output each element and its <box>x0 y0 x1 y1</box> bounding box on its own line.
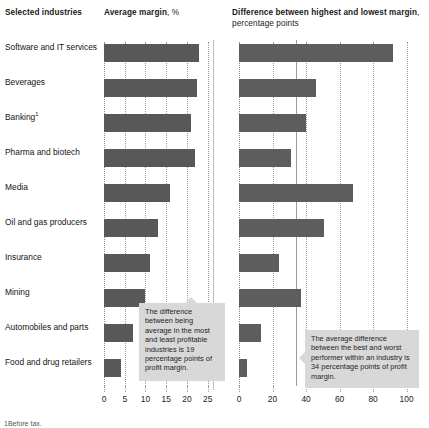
x-tick-mark-0 <box>239 386 240 392</box>
footnote: 1Before tax. <box>4 420 42 428</box>
x-tick-mark-20 <box>273 386 274 392</box>
x-tick-label-20: 20 <box>182 394 191 404</box>
x-axis-difference: 020406080100 <box>239 394 419 414</box>
bar-banking <box>239 114 306 132</box>
bar-oil-and-gas-producers <box>239 219 324 237</box>
row-label-beverages: Beverages <box>5 77 101 87</box>
bar-media <box>104 184 170 202</box>
x-tick-mark-0 <box>104 386 105 392</box>
bar-insurance <box>239 254 279 272</box>
row-label-pharma-and-biotech: Pharma and biotech <box>5 147 101 157</box>
row-label-software-and-it-services: Software and IT services <box>5 42 101 52</box>
annotation-difference-text: The average difference between the best … <box>311 334 410 381</box>
bar-banking <box>104 114 191 132</box>
row-label-automobiles-and-parts: Automobiles and parts <box>5 322 101 332</box>
column-header-industries: Selected industries <box>5 8 100 19</box>
bar-mining <box>239 289 301 307</box>
annotation-pointer-icon <box>299 352 305 364</box>
bar-beverages <box>239 79 316 97</box>
row-label-oil-and-gas-producers: Oil and gas producers <box>5 217 101 227</box>
x-tick-label-15: 15 <box>162 394 171 404</box>
column-header-average-margin-bold: Average margin <box>104 8 167 17</box>
bar-insurance <box>104 254 150 272</box>
x-tick-label-80: 80 <box>368 394 377 404</box>
bar-automobiles-and-parts <box>239 324 261 342</box>
annotation-pointer-icon <box>185 297 197 303</box>
x-axis-average-margin: 0510152025 <box>104 394 216 414</box>
x-tick-mark-15 <box>166 386 167 392</box>
x-tick-label-25: 25 <box>203 394 212 404</box>
bar-software-and-it-services <box>239 44 393 62</box>
x-tick-label-0: 0 <box>102 394 107 404</box>
x-tick-label-40: 40 <box>301 394 310 404</box>
column-header-industries-label: Selected industries <box>5 8 82 17</box>
column-header-difference-bold: Difference between highest and lowest ma… <box>232 8 417 17</box>
x-tick-label-100: 100 <box>400 394 414 404</box>
column-header-average-margin: Average margin, % <box>104 8 219 19</box>
row-label-mining: Mining <box>5 287 101 297</box>
column-header-difference: Difference between highest and lowest ma… <box>232 8 422 29</box>
x-tick-mark-20 <box>187 386 188 392</box>
x-tick-label-20: 20 <box>268 394 277 404</box>
bar-media <box>239 184 353 202</box>
annotation-average-margin-text: The difference between being average in … <box>145 307 212 372</box>
x-tick-mark-10 <box>145 386 146 392</box>
annotation-difference: The average difference between the best … <box>305 330 419 388</box>
x-tick-mark-25 <box>208 386 209 392</box>
row-label-food-and-drug-retailers: Food and drug retailers <box>5 357 101 367</box>
annotation-average-margin: The difference between being average in … <box>139 303 225 381</box>
x-tick-label-5: 5 <box>122 394 127 404</box>
row-label-banking: Banking1 <box>5 112 101 122</box>
chart-container: Selected industries Average margin, % Di… <box>0 0 429 428</box>
bar-food-and-drug-retailers <box>239 359 247 377</box>
bar-pharma-and-biotech <box>104 149 195 167</box>
bar-pharma-and-biotech <box>239 149 291 167</box>
bar-food-and-drug-retailers <box>104 359 121 377</box>
bar-oil-and-gas-producers <box>104 219 158 237</box>
row-label-media: Media <box>5 182 101 192</box>
x-tick-label-60: 60 <box>335 394 344 404</box>
bar-automobiles-and-parts <box>104 324 133 342</box>
bar-beverages <box>104 79 197 97</box>
x-tick-label-10: 10 <box>141 394 150 404</box>
x-tick-label-0: 0 <box>237 394 242 404</box>
bar-software-and-it-services <box>104 44 199 62</box>
column-header-average-margin-unit: , % <box>167 8 179 17</box>
x-tick-mark-5 <box>125 386 126 392</box>
row-label-insurance: Insurance <box>5 252 101 262</box>
